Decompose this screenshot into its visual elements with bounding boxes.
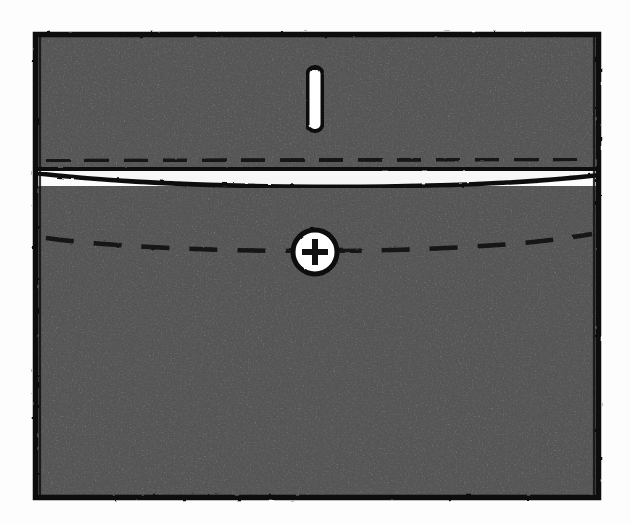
button[interactable] <box>293 230 337 274</box>
figure-container: Sewing construction diagram: flap pocket… <box>0 0 631 523</box>
flap-fold-line <box>34 168 600 170</box>
buttonhole-slot[interactable] <box>308 67 323 131</box>
pocket-illustration <box>0 0 631 523</box>
buttonhole[interactable] <box>308 67 323 131</box>
